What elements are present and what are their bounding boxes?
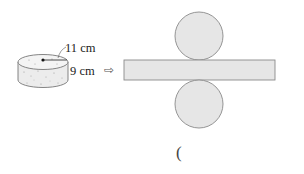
right-arrow-icon: ⇨ [104, 64, 114, 76]
cylinder-net [124, 12, 275, 128]
cylinder-figure [18, 47, 68, 88]
cylinder-top [18, 55, 68, 70]
height-label: 9 cm [70, 65, 95, 78]
answer-open-paren: ( [176, 144, 182, 161]
radius-label: 11 cm [65, 42, 95, 55]
net-lateral-rectangle [124, 60, 275, 80]
net-top-circle [175, 12, 223, 60]
net-bottom-circle [175, 80, 223, 128]
diagram-canvas [0, 0, 304, 174]
